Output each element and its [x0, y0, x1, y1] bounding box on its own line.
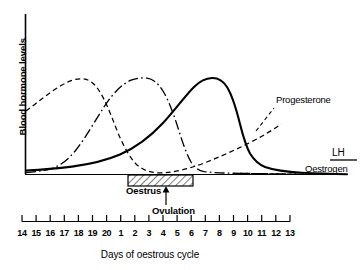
oestrus-annotation-label: Oestrus: [126, 186, 161, 196]
x-tick-label: 13: [285, 228, 294, 238]
x-tick-label: 3: [147, 228, 152, 238]
hormone-cycle-chart: Blood hormone levels Days of oestrous cy…: [0, 0, 363, 270]
x-tick-label: 10: [243, 228, 252, 238]
ovulation-arrow-head: [163, 186, 170, 193]
x-tick-label: 9: [231, 228, 236, 238]
series-label-lh: LH: [332, 148, 345, 158]
series-progesterone-curve: [26, 79, 281, 173]
x-axis-tick-labels: 1415161718192012345678910111213: [0, 228, 363, 242]
x-tick-label: 14: [17, 228, 26, 238]
x-tick-label: 12: [271, 228, 280, 238]
x-tick-label: 6: [189, 228, 194, 238]
series-oestrogen-curve: [26, 78, 306, 174]
y-axis-label: Blood hormone levels: [18, 22, 28, 152]
x-tick-label: 20: [102, 228, 111, 238]
series-label-progesterone: Progesterone: [276, 95, 331, 105]
x-tick-label: 7: [203, 228, 208, 238]
progesterone-leader-line: [256, 108, 274, 131]
x-tick-label: 16: [45, 228, 54, 238]
x-tick-label: 8: [217, 228, 222, 238]
x-tick-label: 19: [88, 228, 97, 238]
x-tick-label: 2: [132, 228, 137, 238]
x-tick-label: 5: [175, 228, 180, 238]
series-label-oestrogen: Oestrogen: [305, 164, 348, 174]
x-axis-label: Days of oestrous cycle: [0, 250, 300, 260]
x-tick-label: 1: [118, 228, 123, 238]
x-tick-label: 15: [31, 228, 40, 238]
x-tick-label: 18: [74, 228, 83, 238]
ovulation-annotation-label: Ovulation: [152, 206, 195, 216]
x-tick-label: 17: [60, 228, 69, 238]
x-tick-label: 11: [257, 228, 266, 238]
x-tick-label: 4: [161, 228, 166, 238]
series-lh-curve: [26, 78, 347, 174]
